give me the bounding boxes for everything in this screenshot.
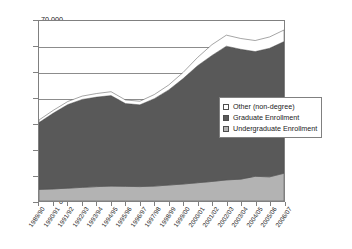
legend-swatch-icon bbox=[223, 115, 229, 121]
legend-item: Other (non-degree) bbox=[223, 101, 317, 112]
legend-item-label: Graduate Enrollment bbox=[233, 114, 299, 121]
x-axis-tick-mark bbox=[82, 202, 83, 206]
legend: Other (non-degree)Graduate EnrollmentUnd… bbox=[219, 97, 322, 138]
legend-item-label: Undergraduate Enrollment bbox=[233, 125, 317, 132]
legend-item: Undergraduate Enrollment bbox=[223, 123, 317, 134]
legend-swatch-icon bbox=[223, 104, 229, 110]
enrollment-area-chart: 70,00060,00050,00040,00030,00020,00010,0… bbox=[0, 0, 352, 249]
x-axis-tick-mark bbox=[111, 202, 112, 206]
legend-item-label: Other (non-degree) bbox=[233, 103, 295, 110]
x-axis-tick-mark bbox=[53, 202, 54, 206]
clipped-header-text bbox=[8, 0, 208, 4]
legend-item: Graduate Enrollment bbox=[223, 112, 317, 123]
legend-swatch-icon bbox=[223, 126, 229, 132]
